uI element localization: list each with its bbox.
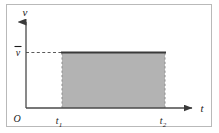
plot-canvas: v t O v t1 t2 xyxy=(0,0,219,133)
shaded-area-region xyxy=(62,53,165,108)
origin-label: O xyxy=(13,113,20,124)
x-tick-label-t2: t2 xyxy=(160,115,167,129)
x-tick-label-t1-sub: 1 xyxy=(59,121,63,129)
velocity-time-figure: v t O v t1 t2 xyxy=(0,0,219,133)
y-value-label: v xyxy=(16,47,21,58)
x-axis-label: t xyxy=(200,102,204,114)
x-tick-label-t1: t1 xyxy=(56,115,62,129)
y-axis-label: v xyxy=(23,6,28,18)
x-tick-label-t2-sub: 2 xyxy=(163,121,167,129)
